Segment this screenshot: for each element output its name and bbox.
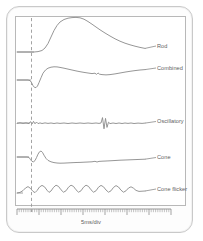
- trace-label-combined: Combined: [157, 65, 183, 71]
- trace-label-rod: Rod: [157, 43, 167, 49]
- trace-label-oscillatory: Oscillatory: [157, 118, 184, 124]
- time-scale-caption: 5ms/div: [60, 219, 122, 225]
- trace-label-cone: Cone: [157, 154, 171, 160]
- trace-label-cone-flicker: Cone flicker: [157, 186, 187, 192]
- erg-device-frame: Rod Combined Oscillatory Cone Cone flick…: [0, 0, 203, 241]
